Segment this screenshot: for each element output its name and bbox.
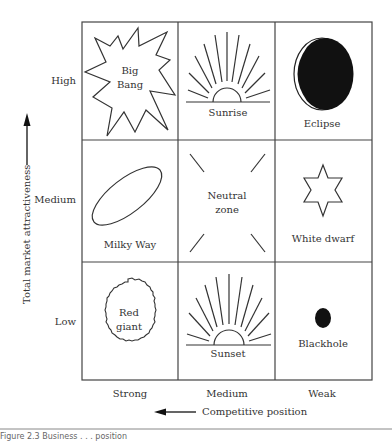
black-dot-icon [315,308,331,328]
y-level-medium: Medium [34,194,76,205]
cell-neutral-label-2: zone [215,204,239,215]
cell-milky-way-label: Milky Way [104,239,157,250]
cell-neutral-label-1: Neutral [207,190,246,201]
cell-red-giant-label-2: giant [116,321,142,332]
cell-blackhole-label: Blackhole [298,338,348,349]
x-level-medium: Medium [206,388,248,399]
y-level-high: High [51,75,76,86]
cell-red-giant-label-1: Red [119,307,139,318]
y-level-low: Low [55,316,77,327]
x-axis-title: Competitive position [202,406,308,417]
sunset-icon [186,274,271,345]
y-axis-title: Total market attractiveness [21,165,32,304]
sunrise-icon [186,32,270,102]
six-point-star-icon [304,165,342,216]
x-level-strong: Strong [113,388,148,399]
cell-eclipse-label: Eclipse [304,118,341,129]
cell-sunset-label: Sunset [211,348,246,359]
x-axis-arrow-icon [154,409,196,416]
y-axis-arrow-icon [24,113,31,165]
cell-white-dwarf-label: White dwarf [292,233,356,244]
eclipse-icon [294,38,354,110]
neutral-lines-icon [190,154,265,252]
x-level-weak: Weak [308,388,336,399]
cell-sunrise-label: Sunrise [209,107,248,118]
figure-caption: Figure 2.3 Business . . . position [0,432,127,441]
ellipse-galaxy-icon [83,157,170,236]
cell-big-bang-label-2: Bang [117,79,144,90]
cell-big-bang-label-1: Big [122,65,140,76]
